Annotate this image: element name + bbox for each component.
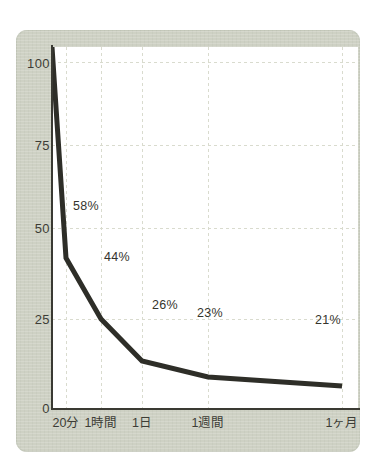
forgetting-curve-plot	[52, 47, 358, 408]
horizontal-gridlines	[52, 63, 358, 320]
forgetting-curve-line	[52, 47, 342, 386]
x-axis-line	[51, 408, 360, 410]
plot-area	[52, 47, 358, 408]
vertical-gridlines	[67, 47, 343, 408]
y-axis-line	[51, 45, 53, 410]
